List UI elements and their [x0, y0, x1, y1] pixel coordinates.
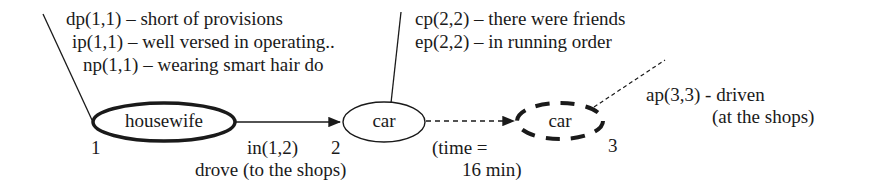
node1-annotation-dp: dp(1,1) – short of provisions — [66, 8, 283, 30]
edge-time-2-3-label: (time = — [432, 137, 488, 159]
node3-annotation-location: (at the shops) — [712, 106, 814, 128]
node-housewife-label: housewife — [104, 110, 224, 132]
node1-annotation-np: np(1,1) – wearing smart hair do — [83, 54, 324, 76]
node2-annotation-connector — [391, 12, 401, 103]
edge-in-1-2-sublabel: drove (to the shops) — [195, 159, 346, 181]
node2-annotation-ep: ep(2,2) – in running order — [415, 31, 612, 53]
node3-annotation-ap: ap(3,3) - driven — [646, 84, 765, 106]
edge-in-1-2-label: in(1,2) — [247, 137, 298, 159]
node2-annotation-cp: cp(2,2) – there were friends — [415, 8, 625, 30]
node-car-3-number: 3 — [608, 135, 618, 157]
node-car-2-number: 2 — [331, 137, 341, 159]
node-car-2-label: car — [354, 110, 414, 132]
node-car-3-label: car — [530, 110, 590, 132]
node-housewife-number: 1 — [91, 137, 101, 159]
edge-time-2-3-sublabel: 16 min) — [462, 159, 522, 181]
node1-annotation-ip: ip(1,1) – well versed in operating.. — [72, 31, 335, 53]
